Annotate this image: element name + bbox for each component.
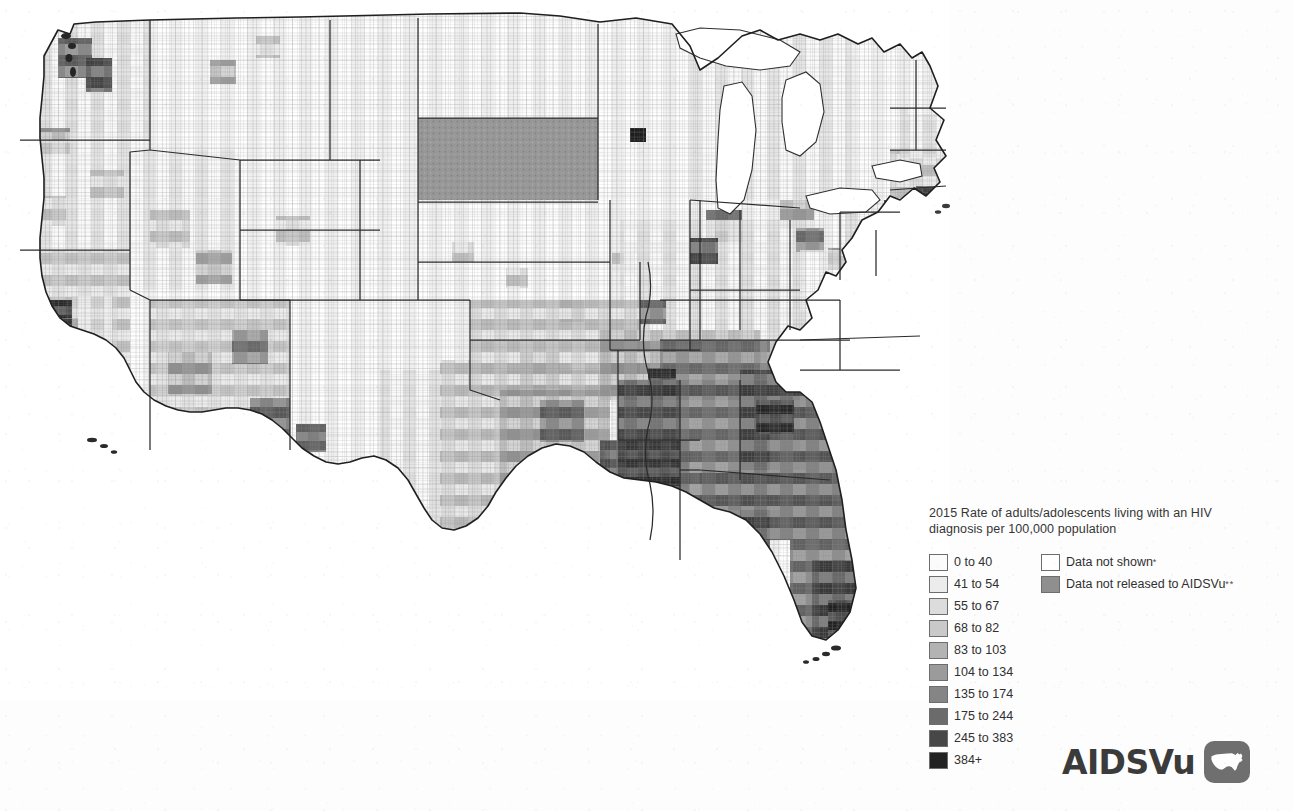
map-legend: 2015 Rate of adults/adolescents living w… [929, 505, 1281, 771]
legend-bin-label-4: 83 to 103 [954, 643, 1006, 657]
aidsvu-logo[interactable]: AIDSVu [1062, 741, 1250, 783]
legend-title-line1: 2015 Rate of adults/adolescents living w… [929, 506, 1212, 520]
legend-swatch-8 [929, 730, 948, 747]
legend-bin-label-7: 175 to 244 [954, 709, 1013, 723]
map-svg [0, 0, 950, 700]
legend-nodata-label-0: Data not shown [1066, 555, 1153, 569]
legend-bin-2[interactable]: 55 to 67 [929, 595, 1041, 617]
legend-nodata-label-1: Data not released to AIDSVu [1066, 577, 1225, 591]
legend-bin-9[interactable]: 384+ [929, 749, 1041, 771]
legend-nodata-column: Data not shown * Data not released to AI… [1041, 551, 1234, 595]
legend-bin-0[interactable]: 0 to 40 [929, 551, 1041, 573]
legend-bin-1[interactable]: 41 to 54 [929, 573, 1041, 595]
legend-swatch-6 [929, 686, 948, 703]
legend-bin-label-1: 41 to 54 [954, 577, 999, 591]
legend-swatch-9 [929, 752, 948, 769]
legend-bin-label-6: 135 to 174 [954, 687, 1013, 701]
legend-nodata-0[interactable]: Data not shown * [1041, 551, 1234, 573]
legend-bin-4[interactable]: 83 to 103 [929, 639, 1041, 661]
legend-nodata-1[interactable]: Data not released to AIDSVu ** [1041, 573, 1234, 595]
legend-bin-label-8: 245 to 383 [954, 731, 1013, 745]
footnote-marker-double: ** [1225, 579, 1234, 589]
legend-bin-label-3: 68 to 82 [954, 621, 999, 635]
legend-bin-label-9: 384+ [954, 753, 982, 767]
legend-bin-7[interactable]: 175 to 244 [929, 705, 1041, 727]
legend-bin-label-5: 104 to 134 [954, 665, 1013, 679]
legend-bin-8[interactable]: 245 to 383 [929, 727, 1041, 749]
legend-swatch-5 [929, 664, 948, 681]
aidsvu-map-page: 2015 Rate of adults/adolescents living w… [0, 0, 1293, 811]
legend-bin-5[interactable]: 104 to 134 [929, 661, 1041, 683]
legend-bin-label-0: 0 to 40 [954, 555, 992, 569]
legend-swatch-1 [929, 576, 948, 593]
legend-swatch-4 [929, 642, 948, 659]
aidsvu-us-map-icon [1204, 741, 1250, 783]
legend-title-line2: diagnosis per 100,000 population [929, 522, 1116, 536]
legend-title: 2015 Rate of adults/adolescents living w… [929, 505, 1229, 537]
legend-body: 0 to 40 41 to 54 55 to 67 68 to 82 83 to… [929, 551, 1281, 771]
legend-swatch-2 [929, 598, 948, 615]
us-choropleth-map [0, 0, 950, 700]
legend-swatch-7 [929, 708, 948, 725]
legend-swatch-data-not-shown [1041, 554, 1060, 571]
legend-swatch-0 [929, 554, 948, 571]
legend-bin-label-2: 55 to 67 [954, 599, 999, 613]
legend-swatch-3 [929, 620, 948, 637]
legend-bin-6[interactable]: 135 to 174 [929, 683, 1041, 705]
footnote-marker-single: * [1153, 557, 1158, 567]
legend-bins-column: 0 to 40 41 to 54 55 to 67 68 to 82 83 to… [929, 551, 1041, 771]
legend-bin-3[interactable]: 68 to 82 [929, 617, 1041, 639]
legend-swatch-data-not-released [1041, 576, 1060, 593]
aidsvu-wordmark: AIDSVu [1062, 746, 1195, 779]
